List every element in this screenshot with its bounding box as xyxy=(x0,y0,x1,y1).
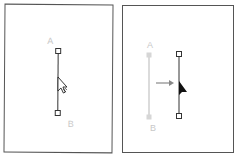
anchor-point-a xyxy=(56,48,61,53)
anchor-point-b xyxy=(55,110,60,115)
path-segment-moved xyxy=(123,6,235,154)
path-segment xyxy=(4,5,114,155)
selection-cursor-icon xyxy=(58,77,67,93)
panel-before: A B xyxy=(3,4,113,154)
panel-after: A B xyxy=(122,5,234,153)
ghost-path-original xyxy=(147,53,152,120)
anchor-point-b xyxy=(177,114,182,119)
direct-select-cursor-icon xyxy=(179,81,187,95)
anchor-point-a xyxy=(177,52,182,57)
arrow-right-icon xyxy=(156,80,174,86)
